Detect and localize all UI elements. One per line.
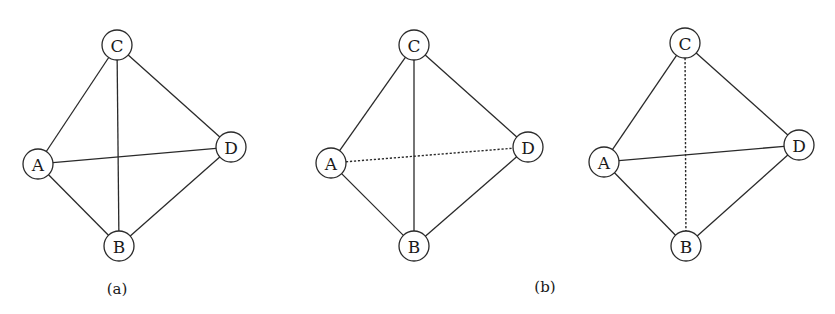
edge-c-d — [425, 55, 517, 137]
node-label: C — [678, 34, 691, 54]
node-c: C — [102, 30, 132, 60]
graph-panel-a: CADB(a) — [23, 30, 246, 298]
node-label: A — [597, 153, 611, 173]
node-a: A — [316, 148, 346, 178]
node-b: B — [104, 231, 134, 261]
node-d: D — [784, 130, 814, 160]
node-label: C — [407, 36, 420, 56]
edge-a-c — [612, 55, 676, 149]
edge-c-d — [696, 53, 788, 135]
graph-figure: CADB(a)CADB(b)CADB — [0, 0, 835, 314]
edge-b-a — [614, 173, 675, 236]
node-label: B — [408, 237, 421, 257]
node-c: C — [670, 28, 700, 58]
edge-c-b-dashed — [685, 58, 686, 231]
panel-caption: (b) — [534, 278, 555, 296]
node-a: A — [23, 149, 53, 179]
edge-d-b — [697, 155, 788, 236]
node-label: A — [324, 154, 338, 174]
node-label: B — [113, 237, 126, 257]
edge-d-b — [425, 157, 516, 236]
edge-a-d-dashed — [346, 148, 513, 162]
node-a: A — [589, 147, 619, 177]
edge-b-a — [49, 175, 109, 236]
node-label: D — [521, 138, 535, 158]
node-label: D — [792, 136, 806, 156]
edge-a-d — [53, 148, 216, 162]
edge-a-c — [46, 57, 108, 151]
node-c: C — [399, 30, 429, 60]
edge-a-d — [619, 146, 784, 160]
node-label: C — [110, 36, 123, 56]
node-label: B — [680, 237, 693, 257]
edge-c-d — [128, 55, 220, 137]
edge-d-b — [130, 157, 220, 236]
node-d: D — [513, 132, 543, 162]
graph-panel-b1: CADB(b) — [316, 30, 556, 296]
node-label: D — [224, 138, 238, 158]
edge-b-a — [342, 174, 404, 236]
panel-caption: (a) — [107, 280, 128, 298]
panels-group: CADB(a)CADB(b)CADB — [23, 28, 814, 298]
edge-a-c — [340, 57, 406, 150]
node-b: B — [671, 231, 701, 261]
graph-panel-b2: CADB — [589, 28, 814, 261]
node-label: A — [31, 155, 45, 175]
node-b: B — [399, 231, 429, 261]
edge-c-b — [117, 60, 119, 231]
node-d: D — [216, 132, 246, 162]
